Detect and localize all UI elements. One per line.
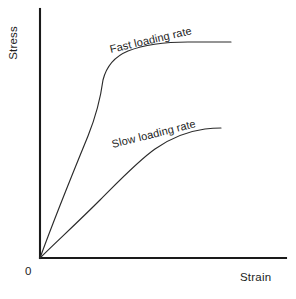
stress-strain-chart: Stress Strain 0 Fast loading rate Slow l… <box>0 0 296 299</box>
y-axis-label-text: Stress <box>8 26 20 60</box>
curve-slow-loading-rate <box>40 128 221 258</box>
origin-label: 0 <box>25 266 32 278</box>
y-axis-label: Stress <box>8 0 20 26</box>
x-axis-label: Strain <box>240 272 271 284</box>
curve-fast-loading-rate <box>40 42 231 258</box>
